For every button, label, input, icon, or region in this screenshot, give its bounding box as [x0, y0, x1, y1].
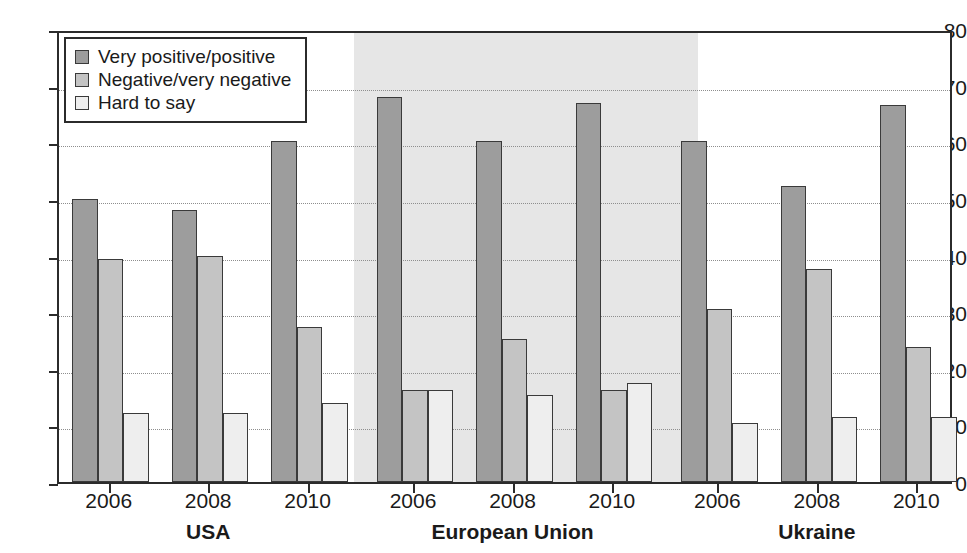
- x-axis-year-label: 2006: [368, 489, 458, 513]
- bar: [502, 339, 528, 482]
- chart-legend: Very positive/positiveNegative/very nega…: [64, 37, 307, 123]
- legend-swatch-icon: [75, 96, 89, 110]
- legend-swatch-icon: [75, 50, 89, 64]
- bar: [322, 403, 348, 482]
- x-axis-year-label: 2010: [263, 489, 353, 513]
- bar: [806, 269, 832, 482]
- bar: [271, 141, 297, 482]
- legend-label: Negative/very negative: [98, 70, 291, 89]
- x-axis-year-label: 2008: [163, 489, 253, 513]
- legend-label: Very positive/positive: [98, 47, 275, 66]
- bar: [601, 390, 627, 482]
- bar: [931, 417, 957, 482]
- bar: [576, 103, 602, 482]
- bar: [377, 97, 403, 482]
- bar-chart: 01020304050607080 2006200820102006200820…: [0, 0, 967, 553]
- bar: [172, 210, 198, 482]
- bar: [707, 309, 733, 482]
- bar: [428, 390, 454, 482]
- x-axis-year-label: 2010: [871, 489, 961, 513]
- bar: [123, 413, 149, 482]
- gridline: [59, 203, 950, 204]
- x-axis-year-label: 2010: [567, 489, 657, 513]
- bar: [197, 256, 223, 483]
- x-axis-year-label: 2006: [64, 489, 154, 513]
- legend-item: Negative/very negative: [75, 68, 291, 91]
- bar: [681, 141, 707, 482]
- legend-swatch-icon: [75, 73, 89, 87]
- bar: [72, 199, 98, 482]
- legend-item: Hard to say: [75, 91, 291, 114]
- bar: [476, 141, 502, 482]
- group-label: Ukraine: [697, 520, 937, 544]
- bar: [297, 327, 323, 482]
- legend-label: Hard to say: [98, 93, 195, 112]
- x-axis-year-label: 2008: [468, 489, 558, 513]
- group-label: USA: [88, 520, 328, 544]
- x-axis-year-label: 2008: [772, 489, 862, 513]
- bar: [402, 390, 428, 482]
- group-label: European Union: [393, 520, 633, 544]
- bar: [527, 395, 553, 482]
- bar: [906, 347, 932, 482]
- bar: [98, 259, 124, 482]
- y-axis-tick-mark: [49, 484, 58, 486]
- bar: [732, 423, 758, 482]
- bar: [880, 105, 906, 482]
- bar: [781, 186, 807, 482]
- legend-item: Very positive/positive: [75, 45, 291, 68]
- bar: [627, 383, 653, 482]
- gridline: [59, 146, 950, 147]
- bar: [223, 413, 249, 482]
- bar: [832, 417, 858, 482]
- x-axis-year-label: 2006: [672, 489, 762, 513]
